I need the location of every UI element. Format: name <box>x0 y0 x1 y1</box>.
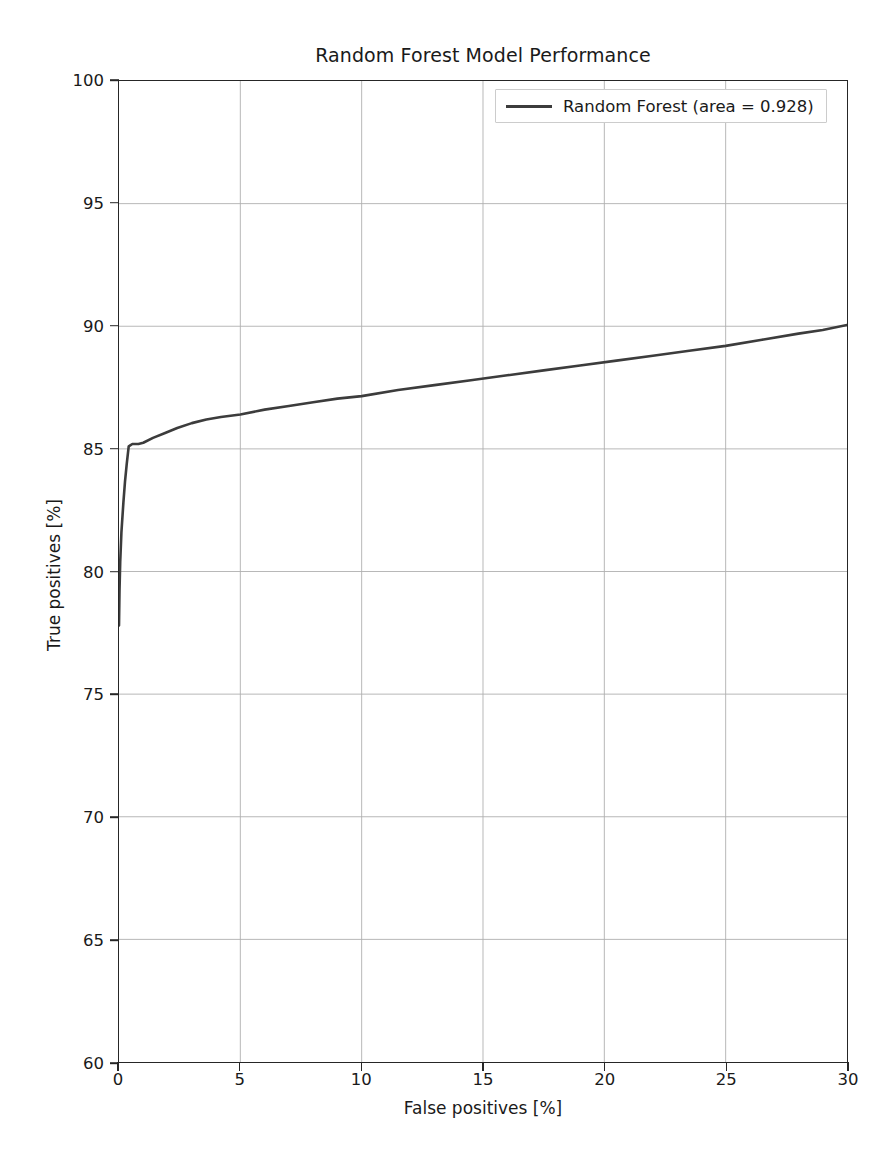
x-tick-mark <box>847 1062 849 1071</box>
x-tick-label: 20 <box>575 1070 635 1089</box>
chart-legend: Random Forest (area = 0.928) <box>495 89 827 123</box>
x-tick-mark <box>482 1062 484 1071</box>
y-tick-mark <box>110 939 119 941</box>
roc-curve-svg <box>119 81 847 1062</box>
x-tick-label: 0 <box>88 1070 148 1089</box>
y-tick-label: 100 <box>0 71 104 90</box>
y-tick-label: 95 <box>0 193 104 212</box>
page-title: Random Forest Model Performance <box>118 44 848 66</box>
legend-line-swatch <box>506 105 552 108</box>
x-tick-label: 5 <box>210 1070 270 1089</box>
y-tick-mark <box>110 816 119 818</box>
plot-area <box>118 80 848 1063</box>
y-tick-mark <box>110 694 119 696</box>
y-tick-mark <box>110 571 119 573</box>
gridlines <box>119 81 847 1062</box>
x-tick-mark <box>726 1062 728 1071</box>
y-tick-mark <box>110 448 119 450</box>
y-tick-label: 65 <box>0 931 104 950</box>
x-axis-label: False positives [%] <box>118 1098 848 1118</box>
y-tick-mark <box>110 79 119 81</box>
y-tick-mark <box>110 202 119 204</box>
y-axis-label: True positives [%] <box>44 265 64 885</box>
legend-entry-label: Random Forest (area = 0.928) <box>563 97 814 116</box>
x-tick-mark <box>604 1062 606 1071</box>
x-tick-mark <box>239 1062 241 1071</box>
figure-canvas: Random Forest Model Performance 60657075… <box>0 0 893 1172</box>
x-tick-label: 10 <box>331 1070 391 1089</box>
x-tick-label: 15 <box>453 1070 513 1089</box>
y-tick-mark <box>110 325 119 327</box>
x-tick-label: 30 <box>818 1070 878 1089</box>
x-tick-label: 25 <box>696 1070 756 1089</box>
x-tick-mark <box>361 1062 363 1071</box>
x-tick-mark <box>117 1062 119 1071</box>
